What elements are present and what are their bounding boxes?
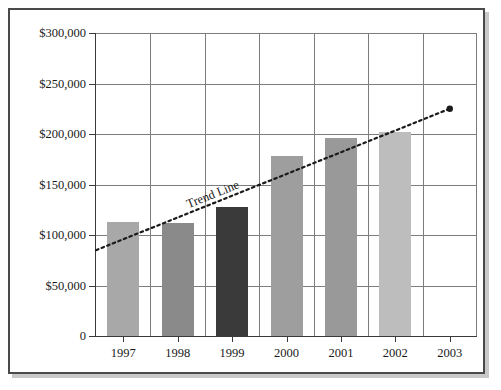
y-axis-tick <box>89 33 95 34</box>
x-axis-line <box>95 336 477 337</box>
x-axis-tick <box>395 337 396 342</box>
y-axis-tick <box>89 286 95 287</box>
y-axis-tick-label: $150,000 <box>0 179 86 192</box>
y-axis-tick-label: $100,000 <box>0 229 86 242</box>
bar-1998[interactable] <box>162 223 194 336</box>
gridline-vertical <box>314 33 315 336</box>
plot-area <box>96 33 477 336</box>
y-axis-tick <box>89 336 95 337</box>
y-axis-tick-label: $200,000 <box>0 128 86 141</box>
plot-top-border <box>96 33 477 34</box>
x-axis-tick-label: 2003 <box>420 346 480 361</box>
bar-1997[interactable] <box>107 222 139 336</box>
gridline-vertical-right-edge <box>476 33 477 336</box>
x-axis-tick <box>232 337 233 342</box>
x-axis-tick <box>450 337 451 342</box>
bar-1999[interactable] <box>216 207 248 336</box>
x-axis-tick <box>287 337 288 342</box>
x-axis-tick <box>178 337 179 342</box>
gridline-vertical <box>205 33 206 336</box>
x-axis-tick-label: 1999 <box>202 346 262 361</box>
chart-figure: $300,000$250,000$200,000$150,000$100,000… <box>0 0 501 390</box>
y-axis-tick <box>89 134 95 135</box>
x-axis-tick-label: 2001 <box>311 346 371 361</box>
x-axis-tick-label: 2000 <box>257 346 317 361</box>
y-axis-tick-label: $250,000 <box>0 78 86 91</box>
gridline-horizontal <box>96 84 477 85</box>
x-axis-tick-label: 2002 <box>365 346 425 361</box>
y-axis-tick <box>89 235 95 236</box>
x-axis-tick <box>123 337 124 342</box>
x-axis-tick-label: 1997 <box>93 346 153 361</box>
gridline-horizontal <box>96 134 477 135</box>
y-axis-tick <box>89 84 95 85</box>
y-axis-tick-label: $50,000 <box>0 280 86 293</box>
x-axis-tick-label: 1998 <box>148 346 208 361</box>
bar-2001[interactable] <box>325 138 357 336</box>
y-axis-tick-label: 0 <box>0 330 86 343</box>
gridline-vertical <box>423 33 424 336</box>
bar-2000[interactable] <box>271 156 303 336</box>
gridline-vertical <box>259 33 260 336</box>
y-axis-tick-label: $300,000 <box>0 27 86 40</box>
y-axis-labels: $300,000$250,000$200,000$150,000$100,000… <box>0 0 86 390</box>
bar-2002[interactable] <box>379 132 411 336</box>
x-axis-tick <box>341 337 342 342</box>
gridline-vertical <box>368 33 369 336</box>
y-axis-tick <box>89 185 95 186</box>
gridline-vertical <box>150 33 151 336</box>
